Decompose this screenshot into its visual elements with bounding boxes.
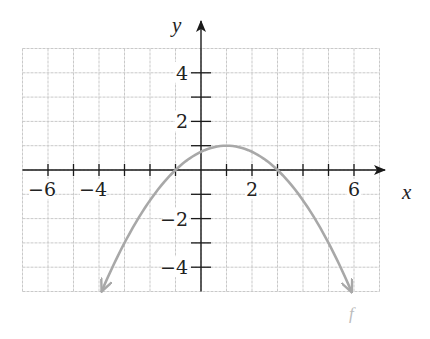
x-axis-label: x bbox=[401, 180, 412, 204]
x-tick-label: −6 bbox=[28, 178, 56, 200]
x-tick-label: 6 bbox=[348, 178, 360, 200]
coordinate-plane: −6−42642−2−4 x y f bbox=[0, 0, 430, 339]
y-tick-label: −2 bbox=[160, 208, 188, 230]
curve-label-f: f bbox=[349, 304, 356, 323]
y-tick-label: −4 bbox=[160, 256, 188, 278]
x-tick-label: 2 bbox=[246, 178, 258, 200]
x-tick-label: −4 bbox=[79, 178, 107, 200]
y-axis-label: y bbox=[170, 13, 182, 37]
y-tick-label: 4 bbox=[176, 62, 188, 84]
y-tick-label: 2 bbox=[176, 110, 188, 132]
